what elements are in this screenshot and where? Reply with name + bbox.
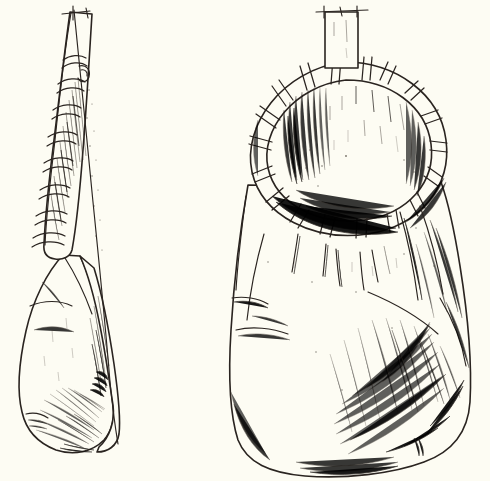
illustration-plate bbox=[0, 0, 490, 481]
ink-drawing-canvas bbox=[0, 0, 490, 481]
